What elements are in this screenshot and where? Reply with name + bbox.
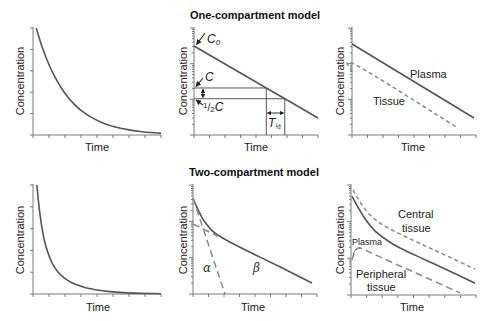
x-axis-label-6: Time: [400, 301, 424, 313]
panel-one-compartment-linear: [30, 27, 161, 138]
title-two-compartment: Two-compartment model: [189, 166, 319, 178]
panel-one-compartment-tissue: [347, 27, 476, 138]
plasma-small-label: Plasma: [352, 237, 382, 247]
svg-text:1/2C: 1/2C: [203, 100, 224, 114]
c-annotation: C: [196, 70, 214, 87]
x-axis-label-5: Time: [241, 301, 265, 313]
panel-two-compartment-linear: [30, 184, 161, 297]
x-axis-label-1: Time: [85, 141, 109, 153]
series-concentration: [37, 185, 161, 294]
t-half-annotation: T½: [268, 116, 281, 130]
plasma-pointer: [353, 249, 356, 254]
title-one-compartment: One-compartment model: [190, 9, 320, 21]
axes: [189, 184, 317, 297]
axes: [348, 27, 476, 138]
svg-text:C: C: [205, 70, 214, 84]
y-axis-label-4: Concentration: [14, 206, 26, 275]
peripheral-tissue-label-2: tissue: [367, 281, 396, 293]
y-axis-label-6: Concentration: [334, 206, 346, 275]
x-axis-label-4: Time: [86, 301, 110, 313]
half-c-annotation: 1/2C: [196, 100, 224, 114]
y-axis-label-1: Concentration: [14, 47, 26, 116]
x-axis-label-3: Time: [401, 141, 425, 153]
series--phase: [193, 198, 225, 294]
central-tissue-label-2: tissue: [402, 222, 431, 234]
x-axis-label-2: Time: [244, 141, 268, 153]
c0-annotation: C0: [197, 32, 221, 47]
plasma-label: Plasma: [410, 68, 448, 80]
series-plasma: [352, 44, 474, 118]
panel-two-compartment-log: [189, 184, 317, 297]
tissue-label: Tissue: [373, 95, 405, 107]
peripheral-tissue-label-1: Peripheral: [356, 268, 406, 280]
axes: [30, 27, 161, 138]
axes: [30, 184, 161, 297]
y-axis-label-2: Concentration: [177, 47, 189, 116]
y-axis-label-3: Concentration: [334, 47, 346, 116]
svg-text:T½: T½: [268, 116, 281, 130]
pharmacokinetics-figure: One-compartment model Two-compartment mo…: [0, 0, 493, 321]
series-concentration: [36, 28, 161, 133]
svg-text:C0: C0: [207, 32, 221, 47]
central-tissue-label-1: Central: [398, 208, 433, 220]
beta-label: β: [252, 261, 260, 275]
alpha-label: α: [203, 261, 211, 275]
y-axis-label-5: Concentration: [177, 206, 189, 275]
